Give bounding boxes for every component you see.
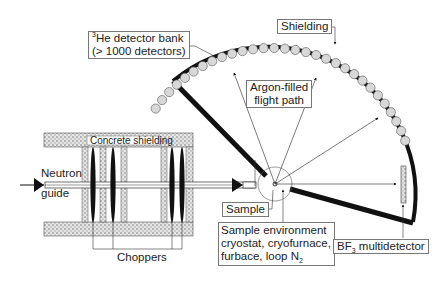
shielding-label: Shielding (277, 19, 332, 34)
bf3-multidetector (401, 166, 406, 203)
he3-detector-tube (358, 76, 367, 85)
he3-detector-tube (280, 44, 289, 53)
he3-detector-tube (217, 53, 226, 62)
he3-detector-tube (341, 64, 350, 73)
he3-detector-tube (259, 44, 268, 53)
he3-detector-tube (322, 54, 331, 63)
choppers-label: Choppers (117, 251, 167, 264)
bf3-multidetector-label: BF3 multidetector (333, 239, 429, 254)
he3-bank-label: 3He detector bank (> 1000 detectors) (88, 31, 190, 59)
he3-detector-tube (386, 108, 395, 117)
he3-detector-tube (158, 96, 167, 105)
argon-flight-path-label: Argon-filled flight path (246, 80, 312, 108)
he3-detector-tube (350, 70, 359, 79)
he3-detector-tube (312, 50, 321, 59)
he3-detector-tube (291, 45, 300, 54)
he3-detector-tube (366, 83, 375, 92)
he3-detector-tube (248, 45, 257, 54)
he3-detector-tube (151, 104, 160, 113)
he3-detector-tube (270, 43, 279, 52)
he3-detector-tube (331, 59, 340, 68)
he3-detector-tube (401, 136, 410, 145)
he3-detector-tube (189, 67, 198, 76)
he3-detector-tube (392, 117, 401, 126)
he3-detector-tube (228, 49, 237, 58)
sample-label: Sample (222, 202, 269, 217)
guide-label: guide (41, 187, 69, 200)
he3-detector-tube (380, 99, 389, 108)
he3-detector-tube (208, 57, 217, 66)
he3-detector-tube (180, 73, 189, 82)
he3-detector-tube (165, 88, 174, 97)
concrete-shielding-label: Concrete shielding (90, 135, 173, 146)
he3-detector-tube (238, 47, 247, 56)
neutron-label: Neutron (41, 167, 82, 180)
he3-detector-tube (198, 61, 207, 70)
sample-environment-label: Sample environment cryostat, cryofurnace… (218, 222, 335, 266)
he3-detector-tube (172, 80, 181, 89)
he3-detector-tube (373, 91, 382, 100)
he3-detector-tube (301, 48, 310, 57)
he3-detector-tube (397, 126, 406, 135)
